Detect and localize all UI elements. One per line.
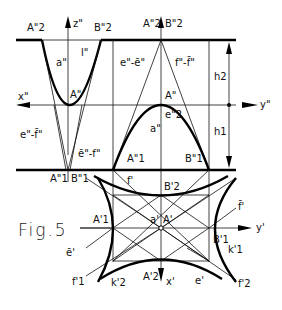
label-h2: h2 <box>214 71 227 82</box>
generator-left-d <box>70 105 82 170</box>
dimension-arrow-down-icon <box>226 156 232 168</box>
label-A-right: A" <box>165 90 176 101</box>
label-B1: B"1 <box>185 153 203 164</box>
label-A: A" <box>70 89 81 100</box>
figure-caption: Fig.5 <box>18 220 68 240</box>
label-A2: A"2 <box>27 22 45 33</box>
label-f2: f'2 <box>238 278 251 289</box>
label-A2-plan: A'2 <box>143 271 159 282</box>
label-ef-mid: ē"-f" <box>78 148 100 159</box>
label-ef-left: e"-f̄" <box>20 128 42 140</box>
label-B2: B"2 <box>94 22 112 33</box>
label-ff: f"-f̄" <box>175 56 195 68</box>
label-z-axis: z" <box>73 18 83 29</box>
line-e-prime <box>187 248 209 261</box>
label-f-bar: f̄' <box>238 200 244 212</box>
label-y-prime: y' <box>256 222 265 233</box>
label-e-prime: e' <box>195 275 204 286</box>
label-x-prime: x' <box>166 276 175 287</box>
label-B1-plan: B'1 <box>213 234 229 245</box>
line-e-bar <box>86 228 113 248</box>
label-x-axis: x" <box>18 91 29 102</box>
descriptive-geometry-figure: A"2 z" B"2 a" l" A" x" e"-f̄" ē"-f" e"-ē… <box>0 0 282 310</box>
x-axis-arrow-icon <box>16 102 30 108</box>
label-A1-plan: A'1 <box>93 214 109 225</box>
line-f-bar-ext <box>209 208 236 228</box>
label-ee: e"-ē" <box>120 57 145 68</box>
label-k1: k'1 <box>228 244 243 255</box>
label-a: a" <box>56 57 67 68</box>
label-k2: k'2 <box>111 277 126 288</box>
label-A1-left: A"1 <box>50 173 68 184</box>
label-h1: h1 <box>214 126 227 137</box>
z-axis-arrow-icon <box>65 16 71 28</box>
label-A2-right: A"2 <box>143 18 161 29</box>
label-y-axis: y" <box>260 99 271 110</box>
label-A1: A"1 <box>127 153 145 164</box>
label-a-right: a" <box>150 123 161 134</box>
label-B2-right: B"2 <box>165 18 183 29</box>
center-point <box>159 226 163 230</box>
label-l: l" <box>81 47 88 58</box>
y-axis-arrow-icon <box>242 102 258 108</box>
label-e-bar: ē' <box>66 247 75 258</box>
label-a-plan: a' <box>150 214 159 225</box>
label-A-plan: A' <box>163 214 173 225</box>
hyperbola-right <box>215 178 236 282</box>
generator-left-c <box>54 105 66 170</box>
y-prime-arrow-icon <box>238 225 252 231</box>
dimension-arrow-up-icon <box>226 42 232 54</box>
label-f1: f'1 <box>72 276 85 287</box>
label-B2-plan: B'2 <box>164 181 180 192</box>
label-f-prime: f' <box>127 175 133 186</box>
label-B1-left: B"1 <box>71 173 89 184</box>
label-e2: e"2 <box>165 109 182 120</box>
